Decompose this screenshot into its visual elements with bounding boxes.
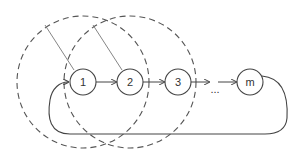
node-3: 3: [165, 69, 191, 95]
svg-text:3: 3: [175, 76, 181, 88]
diagram-svg: 1 2 3 m ...: [0, 0, 300, 158]
svg-text:1: 1: [80, 76, 86, 88]
radius-line-1: [45, 25, 74, 70]
node-1: 1: [70, 69, 96, 95]
radius-line-2: [93, 25, 122, 70]
node-m: m: [237, 69, 263, 95]
svg-text:2: 2: [127, 76, 133, 88]
ellipsis-label: ...: [210, 83, 219, 95]
diagram-canvas: 1 2 3 m ...: [0, 0, 300, 158]
svg-text:m: m: [245, 76, 254, 88]
node-2: 2: [117, 69, 143, 95]
